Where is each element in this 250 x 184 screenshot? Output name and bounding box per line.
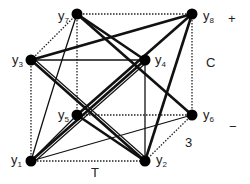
label-y7: y7	[58, 9, 69, 25]
edge-y5-y2	[77, 115, 145, 161]
node-y6	[187, 110, 198, 121]
c-label: C	[206, 56, 215, 69]
node-y2	[140, 156, 151, 167]
label-y2: y2	[156, 153, 167, 169]
plus-label: +	[228, 12, 236, 25]
minus-label: −	[229, 120, 237, 133]
label-y6: y6	[203, 108, 214, 124]
cube-graph-canvas	[0, 0, 250, 184]
node-y4	[140, 55, 151, 66]
edge-y3-y8	[31, 14, 192, 60]
label-y5: y5	[58, 108, 69, 124]
label-y3: y3	[12, 53, 23, 69]
node-y5	[72, 110, 83, 121]
node-y1	[26, 156, 37, 167]
label-y8: y8	[203, 9, 214, 25]
node-y3	[26, 55, 37, 66]
label-y1: y1	[11, 153, 22, 169]
three-label: 3	[185, 136, 192, 149]
t-label: T	[91, 166, 99, 179]
node-y8	[187, 9, 198, 20]
node-y7	[72, 9, 83, 20]
label-y4: y4	[155, 53, 166, 69]
